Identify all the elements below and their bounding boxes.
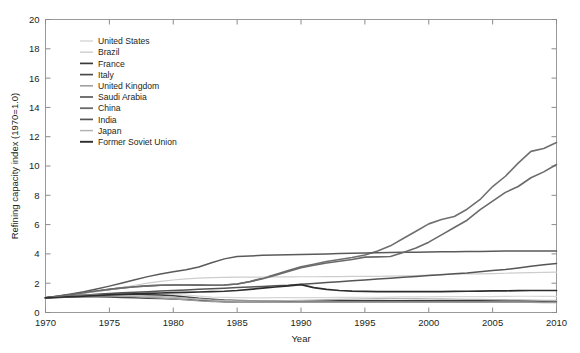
- chart-canvas: 0246810121416182019701975198019851990199…: [0, 0, 580, 353]
- x-tick-label: 2010: [546, 317, 567, 328]
- legend-label-china: China: [98, 103, 121, 113]
- x-tick-label: 2000: [418, 317, 439, 328]
- x-tick-label: 1985: [227, 317, 248, 328]
- y-tick-label: 6: [34, 219, 39, 230]
- x-tick-label: 1980: [163, 317, 184, 328]
- y-tick-label: 2: [34, 278, 39, 289]
- y-tick-label: 18: [29, 43, 40, 54]
- legend-label-italy: Italy: [98, 70, 114, 80]
- series-line-china: [46, 165, 557, 298]
- x-tick-label: 1975: [99, 317, 120, 328]
- legend-label-saudi-arabia: Saudi Arabia: [98, 92, 147, 102]
- x-tick-label: 1970: [35, 317, 56, 328]
- y-tick-label: 16: [29, 73, 40, 84]
- y-tick-label: 12: [29, 131, 40, 142]
- legend-label-japan: Japan: [98, 126, 122, 136]
- y-tick-label: 8: [34, 190, 39, 201]
- y-tick-label: 4: [34, 248, 39, 259]
- legend-label-france: France: [98, 59, 125, 69]
- x-tick-label: 1995: [354, 317, 375, 328]
- legend: United StatesBrazilFranceItalyUnited Kin…: [80, 36, 177, 147]
- legend-label-united-kingdom: United Kingdom: [98, 81, 159, 91]
- x-axis-title: Year: [291, 333, 310, 344]
- refining-capacity-chart: 0246810121416182019701975198019851990199…: [0, 0, 580, 353]
- y-tick-label: 10: [29, 160, 40, 171]
- legend-label-brazil: Brazil: [98, 47, 120, 57]
- series-line-china-upper: [46, 143, 557, 298]
- legend-label-former-soviet-union: Former Soviet Union: [98, 137, 177, 147]
- legend-label-united-states: United States: [98, 36, 150, 46]
- x-tick-label: 2005: [482, 317, 503, 328]
- x-tick-label: 1990: [290, 317, 311, 328]
- y-tick-label: 20: [29, 14, 40, 25]
- series-line-india: [46, 264, 557, 298]
- y-tick-label: 14: [29, 102, 40, 113]
- legend-label-india: India: [98, 115, 117, 125]
- y-axis-title: Refining capacity index (1970=1.0): [9, 93, 20, 240]
